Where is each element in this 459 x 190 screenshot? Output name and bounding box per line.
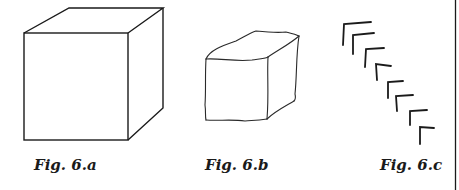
cube-sketch-icon (205, 31, 299, 121)
caption-fig-6b: Fig. 6.b (205, 156, 268, 174)
corner-strokes-icon (343, 22, 434, 144)
caption-fig-6a: Fig. 6.a (34, 156, 97, 174)
caption-fig-6c: Fig. 6.c (380, 156, 442, 174)
cube-precise-icon (24, 8, 163, 140)
